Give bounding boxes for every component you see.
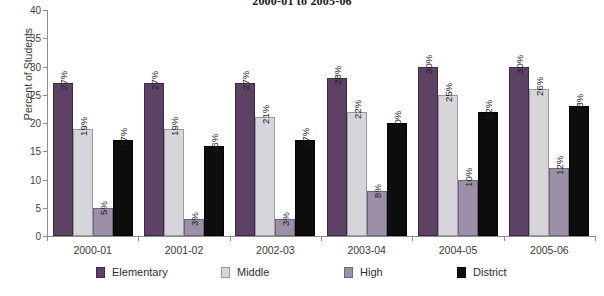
bar-elementary-2004-05 <box>418 67 438 237</box>
x-axis-tick-mark <box>504 236 505 241</box>
x-axis-tick-mark <box>321 236 322 241</box>
x-axis-category-label: 2002-03 <box>230 244 320 256</box>
bar-elementary-2002-03 <box>235 83 255 236</box>
chart-legend: ElementaryMiddleHighDistrict <box>47 266 595 288</box>
bar-value-label: 27% <box>240 71 251 90</box>
bar-value-label: 16% <box>209 133 220 152</box>
bar-value-label: 5% <box>98 201 109 215</box>
bar-district-2000-01 <box>113 140 133 236</box>
y-axis-tick-mark <box>43 38 47 39</box>
y-axis-tick-mark <box>43 10 47 11</box>
x-axis-tick-mark <box>138 236 139 241</box>
bar-elementary-2001-02 <box>144 83 164 236</box>
bar-value-label: 12% <box>554 156 565 175</box>
x-axis-tick-mark <box>230 236 231 241</box>
bar-value-label: 3% <box>280 212 291 226</box>
bar-elementary-2003-04 <box>327 78 347 236</box>
y-axis-tick-label: 35 <box>5 33 41 44</box>
x-axis-tick-mark <box>47 236 48 241</box>
bar-value-label: 19% <box>169 116 180 135</box>
y-axis-tick-mark <box>43 67 47 68</box>
bar-middle-2000-01 <box>73 129 93 236</box>
bar-value-label: 17% <box>300 128 311 147</box>
bar-middle-2002-03 <box>255 117 275 236</box>
bar-value-label: 23% <box>574 94 585 113</box>
bar-high-2005-06 <box>549 168 569 236</box>
legend-swatch-icon <box>457 267 466 278</box>
legend-item-district[interactable]: District <box>457 266 507 278</box>
bar-middle-2003-04 <box>347 112 367 236</box>
bar-value-label: 25% <box>443 82 454 101</box>
bar-district-2004-05 <box>478 112 498 236</box>
bar-value-label: 30% <box>423 54 434 73</box>
bar-middle-2001-02 <box>164 129 184 236</box>
bar-value-label: 22% <box>483 99 494 118</box>
bar-district-2003-04 <box>387 123 407 236</box>
y-axis-tick-label: 30 <box>5 61 41 72</box>
bar-chart-figure: 2000-01 to 2005-06 Percent of Students 0… <box>0 0 604 296</box>
bar-value-label: 19% <box>78 116 89 135</box>
bar-high-2004-05 <box>458 180 478 237</box>
bar-value-label: 30% <box>514 54 525 73</box>
y-axis-tick-label: 10 <box>5 174 41 185</box>
chart-title: 2000-01 to 2005-06 <box>0 0 604 9</box>
legend-item-label: High <box>360 266 383 278</box>
bar-value-label: 10% <box>463 167 474 186</box>
bar-district-2005-06 <box>569 106 589 236</box>
y-axis-tick-mark <box>43 180 47 181</box>
bar-value-label: 17% <box>118 128 129 147</box>
bar-value-label: 3% <box>189 212 200 226</box>
bar-value-label: 27% <box>149 71 160 90</box>
y-axis-tick-label: 20 <box>5 118 41 129</box>
legend-swatch-icon <box>96 267 105 278</box>
y-axis-tick-mark <box>43 95 47 96</box>
legend-item-label: District <box>473 266 507 278</box>
y-axis-tick-label: 5 <box>5 202 41 213</box>
bar-value-label: 28% <box>332 65 343 84</box>
bar-middle-2004-05 <box>438 95 458 236</box>
y-axis-tick-label: 0 <box>5 231 41 242</box>
x-axis-category-label: 2000-01 <box>48 244 138 256</box>
bar-middle-2005-06 <box>529 89 549 236</box>
legend-item-label: Middle <box>237 266 269 278</box>
y-axis-tick-mark <box>43 151 47 152</box>
plot-area: 0510152025303540 27%27%27%28%30%30%19%19… <box>47 10 595 236</box>
x-axis-category-label: 2004-05 <box>413 244 503 256</box>
bar-elementary-2000-01 <box>53 83 73 236</box>
legend-item-high[interactable]: High <box>344 266 383 278</box>
y-axis-tick-mark <box>43 208 47 209</box>
bar-district-2002-03 <box>295 140 315 236</box>
x-axis-category-label: 2003-04 <box>322 244 412 256</box>
bar-district-2001-02 <box>204 146 224 236</box>
bar-value-label: 26% <box>534 77 545 96</box>
y-axis-tick-label: 25 <box>5 89 41 100</box>
bar-value-label: 20% <box>392 111 403 130</box>
bar-value-label: 27% <box>58 71 69 90</box>
legend-item-label: Elementary <box>112 266 168 278</box>
x-axis-tick-mark <box>595 236 596 241</box>
y-axis-title: Percent of Students <box>22 0 34 154</box>
y-axis-tick-mark <box>43 123 47 124</box>
y-axis-tick-label: 15 <box>5 146 41 157</box>
y-axis-line <box>47 10 48 237</box>
bar-value-label: 22% <box>352 99 363 118</box>
x-axis-tick-mark <box>412 236 413 241</box>
x-axis-category-label: 2001-02 <box>139 244 229 256</box>
x-axis-category-label: 2005-06 <box>504 244 594 256</box>
bar-value-label: 8% <box>372 184 383 198</box>
legend-item-elementary[interactable]: Elementary <box>96 266 168 278</box>
bar-elementary-2005-06 <box>509 67 529 237</box>
legend-swatch-icon <box>221 267 230 278</box>
legend-swatch-icon <box>344 267 353 278</box>
y-axis-tick-label: 40 <box>5 5 41 16</box>
legend-item-middle[interactable]: Middle <box>221 266 269 278</box>
bar-value-label: 21% <box>260 105 271 124</box>
